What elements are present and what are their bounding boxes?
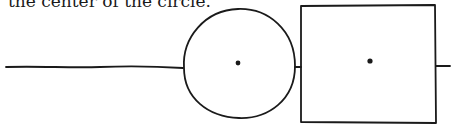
square-shape xyxy=(301,5,436,123)
circle-square-diagram xyxy=(0,0,452,132)
input-line xyxy=(6,66,183,68)
circle-center-dot xyxy=(236,61,241,66)
square-center-dot xyxy=(367,58,372,63)
